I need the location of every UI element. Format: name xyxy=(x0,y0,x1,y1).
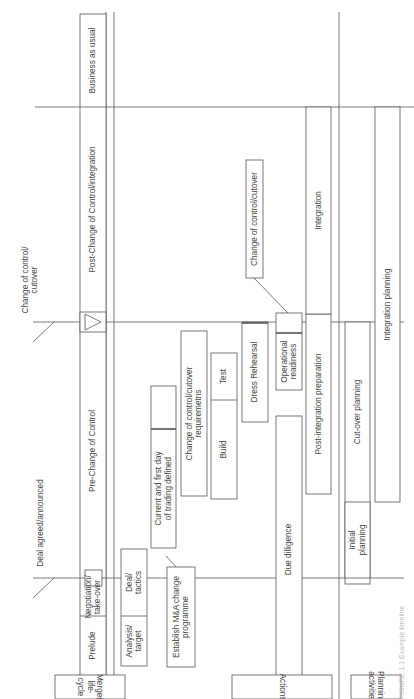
callout-line xyxy=(254,278,288,313)
post-change-label: Post-Change of Control/integration xyxy=(80,107,106,312)
figure-caption: FIGURE 1.1 Example timeline xyxy=(398,459,405,699)
integration-label: Integration xyxy=(306,107,331,314)
due-diligence-label: Due dilligence xyxy=(276,416,302,683)
initial-planning-label: Initial planning xyxy=(345,502,370,578)
change-callout-label: Change of control/cutover xyxy=(246,160,263,278)
change-of-control-marker xyxy=(80,312,106,332)
establish-label: Establish M&A change programme xyxy=(167,567,195,667)
lane-label-merger: Merger life-cycle xyxy=(55,675,125,699)
pre-change-label: Pre-Change of Control xyxy=(80,332,106,570)
dress-rehearsal-label: Dress Rehearsal xyxy=(242,322,268,422)
milestone-deal-agreed: Deal agreed/announced xyxy=(30,468,52,578)
deal-tactics-label: Deal/ tactics xyxy=(121,549,147,616)
integration-planning-label: Integration planning xyxy=(375,107,400,502)
analysis-label: Analysis/ target xyxy=(121,616,147,666)
requirements-label: Change of control/cutover requiremetns xyxy=(181,331,207,496)
milestone-change-of-control: Change of control/ cutover xyxy=(14,225,46,335)
current-first-day-label: Current and first day of trading defined xyxy=(151,429,176,548)
build-label: Build xyxy=(211,400,237,499)
negotiation-label: Negotiation/ take-over xyxy=(80,578,106,616)
callout-line xyxy=(33,578,54,598)
test-label: Test xyxy=(211,353,237,400)
post-integration-prep-label: Post-integration preparation xyxy=(306,314,331,494)
prelude-label: Prelude xyxy=(80,616,106,675)
callout-line xyxy=(166,556,176,567)
business-as-usual-label: Business as usual xyxy=(80,14,106,107)
cutover-planning-label: Cut-over planning xyxy=(345,322,370,502)
operational-readiness-label: Operational readiness xyxy=(276,333,302,390)
lane-label-planning: Planning activities xyxy=(351,675,401,699)
